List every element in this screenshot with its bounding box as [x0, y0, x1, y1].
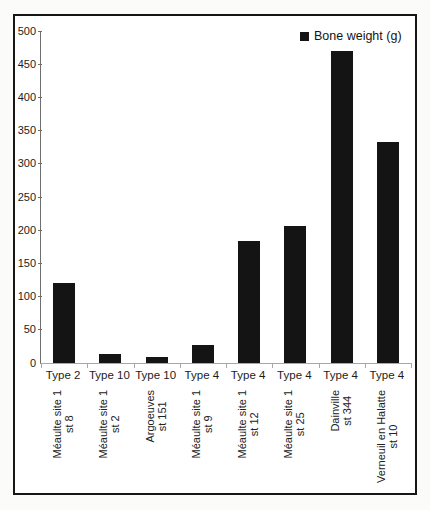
- y-tick-label: 250: [15, 191, 36, 204]
- site-label-line: Méaulte site 1: [282, 390, 294, 458]
- scanned-chart-page: Bone weight (g) 050100150200250300350400…: [0, 0, 430, 510]
- x-axis-type-label: Type 4: [225, 368, 271, 383]
- x-tick-mark: [411, 363, 412, 368]
- site-label-line: st 151: [156, 390, 168, 443]
- site-label-line: Verneuil en Halatte: [375, 390, 387, 483]
- x-axis-site-label-cell: Dainvillest 344: [318, 390, 364, 502]
- bar: [377, 142, 399, 363]
- site-label-line: st 25: [294, 390, 306, 458]
- y-tick-mark: [38, 197, 42, 198]
- x-axis-site-label-cell: Méaulte site 1st 25: [271, 390, 317, 502]
- x-axis-site-label-cell: Méaulte site 1st 8: [40, 390, 86, 502]
- y-tick-label: 500: [15, 25, 36, 38]
- x-axis-site-label: Méaulte site 1st 12: [236, 390, 260, 458]
- x-axis-site-label: Argoeuvesst 151: [144, 390, 168, 443]
- bar: [192, 345, 214, 363]
- y-tick-label: 450: [15, 58, 36, 71]
- y-tick-mark: [38, 97, 42, 98]
- x-axis-type-label: Type 10: [86, 368, 132, 383]
- site-label-line: Méaulte site 1: [51, 390, 63, 458]
- y-tick-label: 400: [15, 91, 36, 104]
- site-label-line: st 2: [109, 390, 121, 458]
- y-tick-mark: [38, 31, 42, 32]
- site-label-line: st 10: [387, 390, 399, 483]
- site-label-line: Méaulte site 1: [236, 390, 248, 458]
- x-axis-site-label: Méaulte site 1st 9: [190, 390, 214, 458]
- x-axis-type-label: Type 4: [318, 368, 364, 383]
- site-label-line: st 9: [202, 390, 214, 458]
- x-axis-site-label-cell: Méaulte site 1st 2: [86, 390, 132, 502]
- y-tick-mark: [38, 163, 42, 164]
- x-axis-site-label-cell: Verneuil en Halattest 10: [364, 390, 410, 502]
- y-tick-label: 300: [15, 157, 36, 170]
- y-tick-label: 50: [15, 323, 36, 336]
- site-label-line: Dainville: [329, 390, 341, 432]
- site-label-line: Argoeuves: [144, 390, 156, 443]
- site-label-line: Méaulte site 1: [97, 390, 109, 458]
- x-axis-site-labels: Méaulte site 1st 8Méaulte site 1st 2Argo…: [40, 390, 410, 502]
- x-axis-site-label: Verneuil en Halattest 10: [375, 390, 399, 483]
- x-axis-site-label: Méaulte site 1st 8: [51, 390, 75, 458]
- y-tick-mark: [38, 263, 42, 264]
- site-label-line: st 12: [248, 390, 260, 458]
- bar: [284, 226, 306, 363]
- x-axis-type-label: Type 2: [40, 368, 86, 383]
- site-label-line: st 8: [63, 390, 75, 458]
- bar: [53, 283, 75, 363]
- x-axis-type-label: Type 4: [271, 368, 317, 383]
- plot-area: [40, 31, 411, 364]
- bar: [238, 241, 260, 363]
- x-axis-site-label: Dainvillest 344: [329, 390, 353, 432]
- y-tick-mark: [38, 64, 42, 65]
- x-axis-type-labels: Type 2Type 10Type 10Type 4Type 4Type 4Ty…: [40, 368, 410, 383]
- y-tick-label: 100: [15, 290, 36, 303]
- y-tick-label: 150: [15, 257, 36, 270]
- site-label-line: st 344: [341, 390, 353, 432]
- y-tick-mark: [38, 230, 42, 231]
- x-axis-type-label: Type 4: [179, 368, 225, 383]
- bar: [99, 354, 121, 363]
- y-tick-mark: [38, 296, 42, 297]
- y-tick-mark: [38, 130, 42, 131]
- y-tick-label: 350: [15, 124, 36, 137]
- x-axis-site-label-cell: Méaulte site 1st 9: [179, 390, 225, 502]
- y-tick-label: 200: [15, 224, 36, 237]
- x-axis-type-label: Type 10: [133, 368, 179, 383]
- y-axis-labels: 050100150200250300350400450500: [15, 31, 36, 363]
- y-tick-label: 0: [15, 357, 36, 370]
- bar: [331, 51, 353, 363]
- x-axis-site-label: Méaulte site 1st 25: [282, 390, 306, 458]
- x-axis-site-label-cell: Argoeuvesst 151: [133, 390, 179, 502]
- x-axis-type-label: Type 4: [364, 368, 410, 383]
- bar: [146, 357, 168, 363]
- site-label-line: Méaulte site 1: [190, 390, 202, 458]
- chart-frame: Bone weight (g) 050100150200250300350400…: [13, 14, 417, 495]
- y-tick-mark: [38, 329, 42, 330]
- x-axis-site-label-cell: Méaulte site 1st 12: [225, 390, 271, 502]
- x-axis-site-label: Méaulte site 1st 2: [97, 390, 121, 458]
